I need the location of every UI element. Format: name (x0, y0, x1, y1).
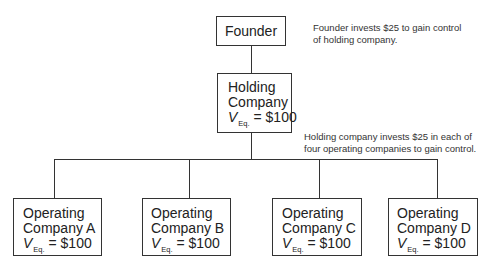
holding-to-bus-connector (251, 132, 252, 159)
operating-b-equity-value: VEq. = $100 (151, 236, 224, 253)
equity-amount: = $100 (177, 235, 220, 251)
operating-company-c-box: Operating Company C VEq. = $100 (272, 198, 362, 256)
founder-box: Founder (216, 16, 286, 46)
equity-subscript: Eq. (407, 245, 418, 254)
holding-note-line-1: Holding company invests $25 in each of (304, 131, 476, 143)
operating-b-line-2: Company B (151, 221, 224, 236)
holding-equity-value: VEq. = $100 (228, 110, 297, 127)
holding-line-1: Holding (228, 80, 297, 95)
founder-note: Founder invests $25 to gain control of h… (313, 22, 461, 46)
holding-line-2: Company (228, 95, 297, 110)
operating-c-equity-value: VEq. = $100 (282, 236, 356, 253)
founder-label: Founder (217, 24, 285, 39)
founder-to-holding-connector (251, 45, 252, 73)
equity-amount: = $100 (308, 235, 351, 251)
holding-note: Holding company invests $25 in each of f… (304, 131, 476, 155)
operating-company-c-text: Operating Company C VEq. = $100 (282, 206, 356, 253)
equity-amount: = $100 (254, 109, 297, 125)
operating-d-line-1: Operating (397, 206, 471, 221)
operating-company-d-box: Operating Company D VEq. = $100 (388, 198, 478, 256)
operating-company-b-box: Operating Company B VEq. = $100 (142, 198, 231, 256)
operating-d-equity-value: VEq. = $100 (397, 236, 471, 253)
equity-variable: V (228, 109, 237, 125)
founder-note-line-1: Founder invests $25 to gain control (313, 22, 461, 34)
holding-note-line-2: four operating companies to gain control… (304, 143, 476, 155)
operating-d-line-2: Company D (397, 221, 471, 236)
operating-company-a-text: Operating Company A VEq. = $100 (23, 206, 95, 253)
horizontal-bus-connector (54, 159, 438, 160)
operating-company-b-text: Operating Company B VEq. = $100 (151, 206, 224, 253)
bus-to-company-a-connector (54, 159, 55, 198)
equity-amount: = $100 (49, 235, 92, 251)
bus-to-company-b-connector (189, 159, 190, 198)
holding-company-text: Holding Company VEq. = $100 (228, 80, 297, 127)
equity-subscript: Eq. (33, 245, 44, 254)
founder-note-line-2: of holding company. (313, 34, 461, 46)
equity-variable: V (397, 235, 406, 251)
equity-variable: V (23, 235, 32, 251)
operating-a-equity-value: VEq. = $100 (23, 236, 95, 253)
equity-amount: = $100 (423, 235, 466, 251)
equity-subscript: Eq. (238, 119, 249, 128)
holding-company-box: Holding Company VEq. = $100 (217, 73, 292, 133)
equity-subscript: Eq. (161, 245, 172, 254)
operating-a-line-1: Operating (23, 206, 95, 221)
equity-variable: V (151, 235, 160, 251)
bus-to-company-d-connector (437, 159, 438, 198)
equity-subscript: Eq. (292, 245, 303, 254)
operating-company-a-box: Operating Company A VEq. = $100 (13, 198, 102, 256)
bus-to-company-c-connector (319, 159, 320, 198)
operating-c-line-1: Operating (282, 206, 356, 221)
operating-b-line-1: Operating (151, 206, 224, 221)
operating-c-line-2: Company C (282, 221, 356, 236)
equity-variable: V (282, 235, 291, 251)
operating-company-d-text: Operating Company D VEq. = $100 (397, 206, 471, 253)
operating-a-line-2: Company A (23, 221, 95, 236)
